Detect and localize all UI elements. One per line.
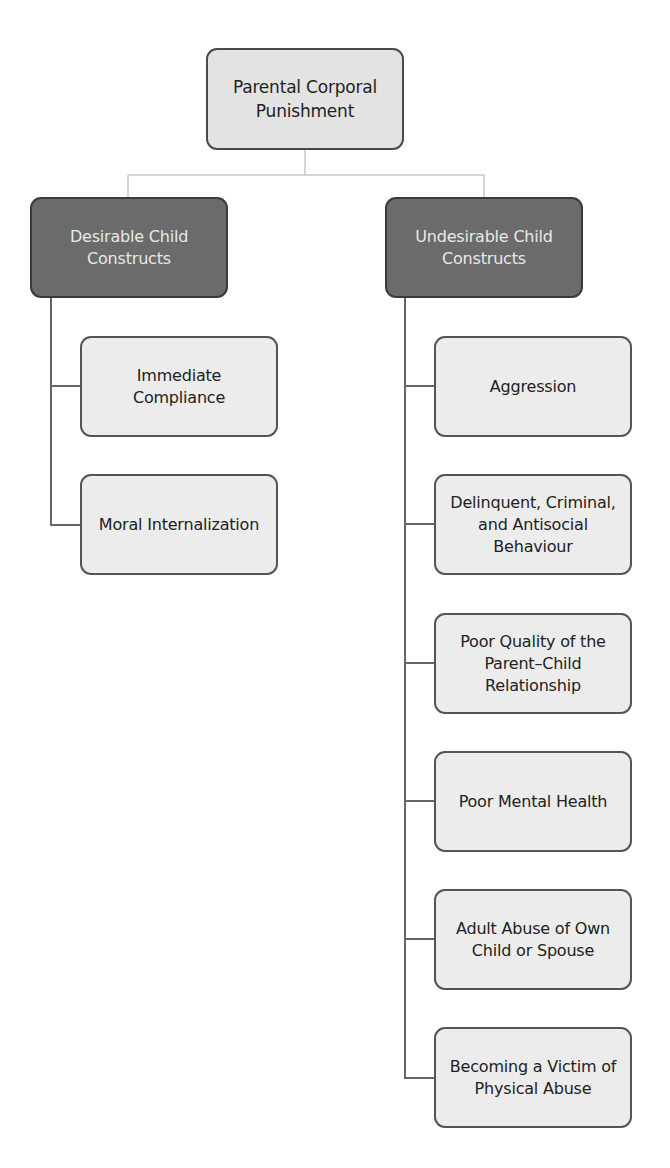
leaf-label-line: Aggression <box>490 376 576 398</box>
category-label-line1: Desirable Child <box>70 226 188 248</box>
root-label-line2: Punishment <box>233 99 377 123</box>
leaf-immediate-compliance: Immediate Compliance <box>80 336 278 437</box>
root-node: Parental Corporal Punishment <box>206 48 404 150</box>
connector-lines <box>0 0 670 1168</box>
category-desirable: Desirable Child Constructs <box>30 197 228 298</box>
category-label-line2: Constructs <box>415 248 553 270</box>
leaf-label-line: Delinquent, Criminal, <box>450 492 615 514</box>
leaf-delinquent-behaviour: Delinquent, Criminal, and Antisocial Beh… <box>434 474 632 575</box>
leaf-label-line: and Antisocial <box>450 514 615 536</box>
leaf-adult-abuse: Adult Abuse of Own Child or Spouse <box>434 889 632 990</box>
leaf-label-line: Child or Spouse <box>456 940 610 962</box>
leaf-label-line: Poor Quality of the <box>460 631 606 653</box>
leaf-label-line: Adult Abuse of Own <box>456 918 610 940</box>
leaf-label-line: Relationship <box>460 675 606 697</box>
category-label-line1: Undesirable Child <box>415 226 553 248</box>
leaf-label-line: Moral Internalization <box>99 514 259 536</box>
leaf-label-line: Parent–Child <box>460 653 606 675</box>
leaf-label-line: Poor Mental Health <box>459 791 608 813</box>
leaf-label-line: Physical Abuse <box>450 1078 616 1100</box>
hierarchy-diagram: Parental Corporal Punishment Desirable C… <box>0 0 670 1168</box>
category-undesirable: Undesirable Child Constructs <box>385 197 583 298</box>
root-label-line1: Parental Corporal <box>233 75 377 99</box>
leaf-label-line: Becoming a Victim of <box>450 1056 616 1078</box>
leaf-poor-mental-health: Poor Mental Health <box>434 751 632 852</box>
leaf-victim-physical-abuse: Becoming a Victim of Physical Abuse <box>434 1027 632 1128</box>
leaf-label-line: Immediate <box>133 365 225 387</box>
category-label-line2: Constructs <box>70 248 188 270</box>
leaf-label-line: Compliance <box>133 387 225 409</box>
leaf-moral-internalization: Moral Internalization <box>80 474 278 575</box>
leaf-label-line: Behaviour <box>450 536 615 558</box>
leaf-aggression: Aggression <box>434 336 632 437</box>
leaf-poor-relationship-quality: Poor Quality of the Parent–Child Relatio… <box>434 613 632 714</box>
